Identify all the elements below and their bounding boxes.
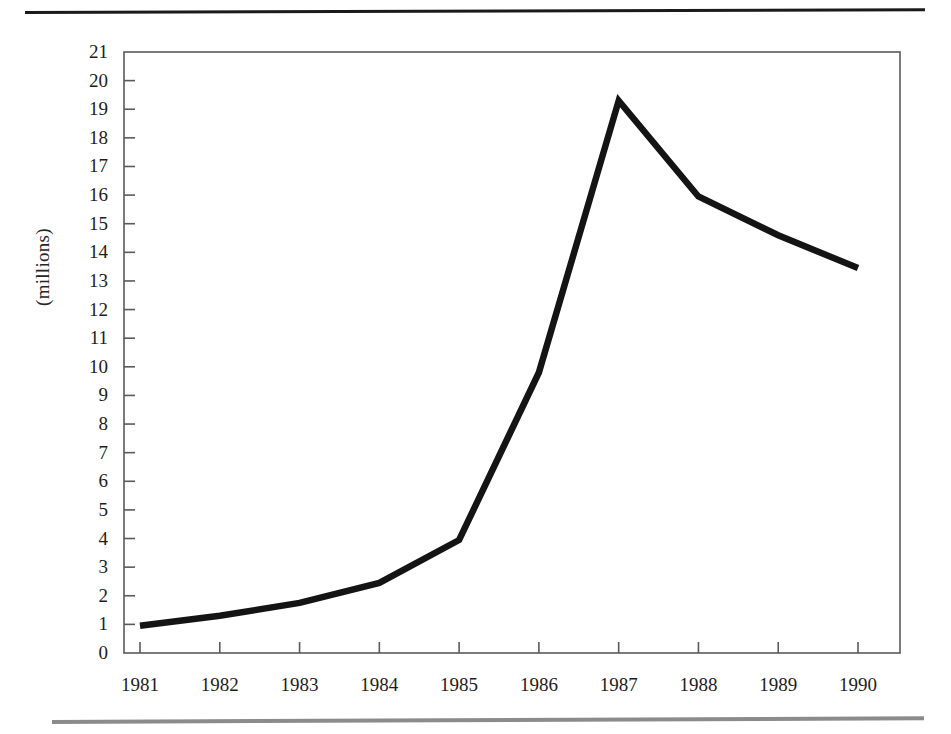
data-line-series — [140, 101, 858, 626]
plot-area — [0, 0, 951, 734]
y-axis-ticks — [124, 81, 135, 625]
x-axis-ticks — [140, 642, 858, 653]
chart-figure: (millions) 21201918171615141312111098765… — [0, 0, 951, 734]
plot-frame — [124, 52, 900, 653]
axis-frame — [124, 52, 900, 653]
